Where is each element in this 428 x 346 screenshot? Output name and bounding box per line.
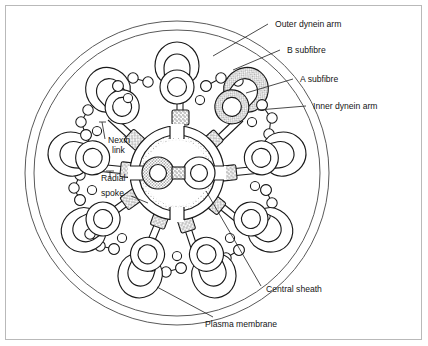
label-inner-dynein-arm: Inner dynein arm — [313, 101, 378, 111]
inner-dynein-arm — [123, 93, 132, 102]
outer-dynein-arm — [113, 81, 124, 92]
label-a-subfibre: A subfibre — [300, 74, 338, 84]
inner-dynein-arm — [172, 251, 181, 260]
inner-dynein-arm — [250, 181, 259, 190]
inner-dynein-arm — [87, 185, 96, 194]
nexin-link-leader — [102, 122, 105, 139]
label-b-subfibre: B subfibre — [287, 45, 326, 55]
label-nexin-link-line2: link — [112, 145, 126, 155]
label-radial-spoke-line1: Radial — [101, 173, 125, 183]
label-radial-spoke-line2: spoke — [101, 188, 124, 198]
label-outer-dynein-arm: Outer dynein arm — [275, 19, 341, 29]
axoneme-diagram: Outer dynein arm B subfibre A subfibre I… — [0, 0, 428, 346]
inner-dynein-arm — [117, 233, 126, 242]
label-nexin-link-line1: Nexin — [108, 135, 130, 145]
outer-dynein-arm — [75, 195, 86, 206]
outer-dynein-arm — [109, 244, 120, 255]
outer-doublet — [76, 58, 150, 134]
inner-dynein-arm — [195, 95, 204, 104]
outer-dynein-arm — [257, 100, 268, 111]
figure-canvas: Outer dynein arm B subfibre A subfibre I… — [0, 0, 428, 346]
label-central-sheath: Central sheath — [266, 284, 322, 294]
inner-dynein-arm — [92, 126, 101, 135]
outer-dynein-arm — [261, 185, 272, 196]
inner-dynein-arm — [247, 117, 256, 126]
outer-doublet — [155, 42, 199, 104]
outer-dynein-arm — [176, 263, 187, 274]
outer-dynein-arm — [201, 81, 212, 92]
outer-dynein-arm-leader — [213, 24, 268, 56]
outer-dynein-arm — [81, 130, 92, 141]
label-plasma-membrane: Plasma membrane — [205, 319, 277, 329]
